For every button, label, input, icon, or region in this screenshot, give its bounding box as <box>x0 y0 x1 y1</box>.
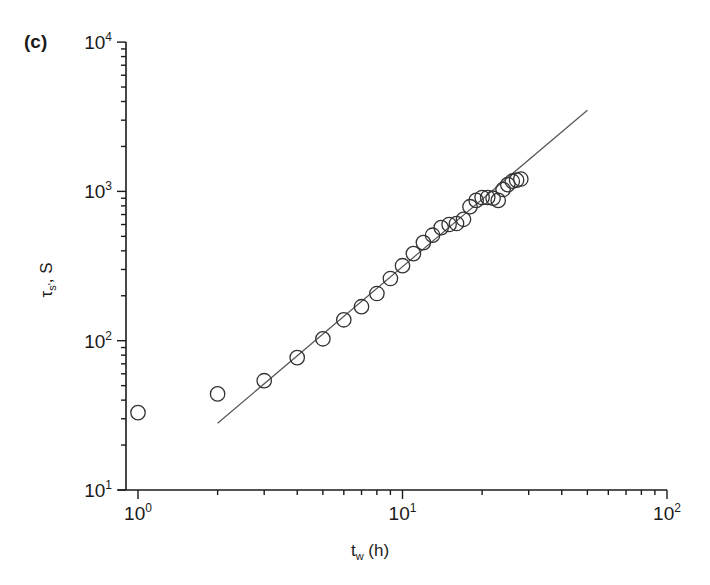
x-tick-label: 102 <box>653 501 681 524</box>
fit-line <box>218 110 588 423</box>
x-tick-label: 100 <box>124 501 152 524</box>
data-points <box>131 172 528 420</box>
y-tick-label: 102 <box>84 329 112 352</box>
y-axis-title: τs', S <box>37 262 58 297</box>
data-point-marker <box>434 220 448 234</box>
chart-canvas: 101102103104100101102 (c) tw (h) τs', S <box>0 0 710 585</box>
data-point-marker <box>395 259 409 273</box>
x-tick-label: 101 <box>389 501 417 524</box>
y-tick-label: 101 <box>84 478 112 501</box>
data-point-marker <box>337 313 351 327</box>
x-axis-title-rest: (h) <box>364 541 390 560</box>
data-point-marker <box>210 387 224 401</box>
data-point-marker <box>425 228 439 242</box>
data-point-marker <box>290 350 304 364</box>
panel-label: (c) <box>24 31 47 52</box>
data-point-marker <box>463 200 477 214</box>
x-axis-title-sub: w <box>355 550 364 562</box>
x-axis-title: tw (h) <box>351 541 389 562</box>
data-point-marker <box>383 271 397 285</box>
y-tick-label: 104 <box>84 30 112 53</box>
data-point-marker <box>131 405 145 419</box>
y-axis-title-rest: , S <box>37 262 56 283</box>
y-tick-label: 103 <box>84 179 112 202</box>
data-point-marker <box>257 374 271 388</box>
labels: (c) tw (h) τs', S <box>24 31 389 562</box>
y-axis-title-sub: s' <box>46 283 58 291</box>
fit-line-path <box>218 110 588 423</box>
data-point-marker <box>416 235 430 249</box>
